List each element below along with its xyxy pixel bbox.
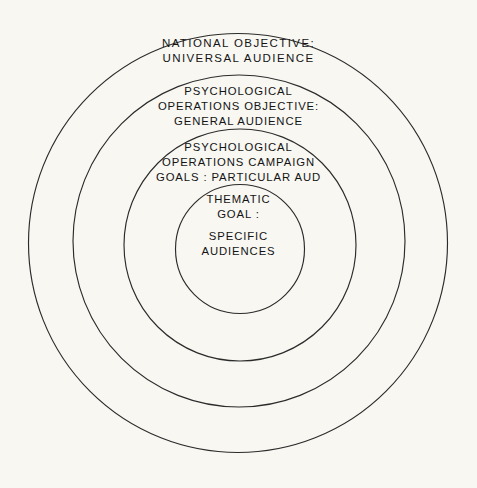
ring-label-line: OPERATIONS CAMPAIGN xyxy=(0,155,477,170)
ring-label-national-objective: NATIONAL OBJECTIVE: UNIVERSAL AUDIENCE xyxy=(0,36,477,67)
ring-label-line: GOALS : PARTICULAR AUD xyxy=(0,170,477,185)
ring-label-psychological-operations-objective: PSYCHOLOGICAL OPERATIONS OBJECTIVE: GENE… xyxy=(0,84,477,129)
ring-label-line: GENERAL AUDIENCE xyxy=(0,114,477,129)
ring-label-line: SPECIFIC xyxy=(0,229,477,244)
ring-label-line: AUDIENCES xyxy=(0,244,477,259)
ring-label-line: UNIVERSAL AUDIENCE xyxy=(0,51,477,66)
ring-label-line: PSYCHOLOGICAL xyxy=(0,84,477,99)
ring-label-thematic-goal: THEMATIC GOAL : SPECIFIC AUDIENCES xyxy=(0,192,477,259)
label-spacer xyxy=(0,222,477,229)
ring-label-psychological-operations-campaign-goals: PSYCHOLOGICAL OPERATIONS CAMPAIGN GOALS … xyxy=(0,140,477,185)
ring-label-line: NATIONAL OBJECTIVE: xyxy=(0,36,477,51)
diagram-canvas: NATIONAL OBJECTIVE: UNIVERSAL AUDIENCE P… xyxy=(0,0,477,488)
ring-label-line: GOAL : xyxy=(0,207,477,222)
ring-label-line: THEMATIC xyxy=(0,192,477,207)
ring-label-line: OPERATIONS OBJECTIVE: xyxy=(0,99,477,114)
ring-label-line: PSYCHOLOGICAL xyxy=(0,140,477,155)
